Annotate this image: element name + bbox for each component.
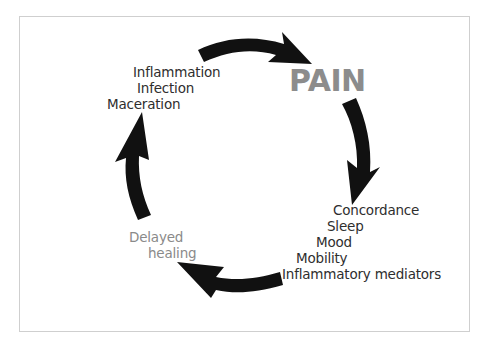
factor-infection: Infection: [137, 80, 194, 96]
cycle-arrows: [0, 0, 490, 350]
arrow-top-icon: [198, 32, 312, 64]
factor-maceration: Maceration: [107, 96, 180, 112]
pain-label: PAIN: [289, 66, 366, 96]
factor-inflammatory-mediators: Inflammatory mediators: [282, 266, 441, 282]
delayed-healing-line1: Delayed: [129, 229, 183, 245]
arrow-left-icon: [115, 112, 151, 220]
factor-mobility: Mobility: [296, 250, 347, 266]
arrow-bottom-icon: [177, 262, 283, 298]
factor-mood: Mood: [316, 234, 352, 250]
factor-inflammation: Inflammation: [133, 64, 220, 80]
delayed-healing-line2: healing: [148, 245, 196, 261]
factor-concordance: Concordance: [333, 202, 419, 218]
arrow-right-icon: [342, 98, 380, 205]
factor-sleep: Sleep: [327, 218, 364, 234]
